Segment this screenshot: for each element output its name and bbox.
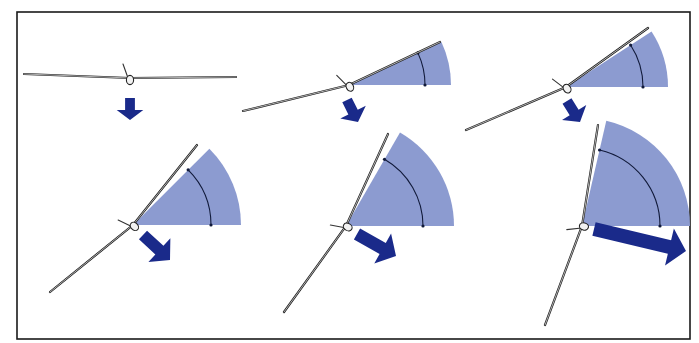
panel-4 — [50, 145, 241, 292]
panel-2 — [243, 42, 451, 122]
arc-end-dot — [658, 224, 661, 227]
bank-angle-sector — [582, 121, 690, 226]
glider-tail-fin — [567, 228, 582, 230]
bank-angle-sector — [133, 149, 241, 225]
bank-angle-sector — [566, 31, 668, 87]
lift-arrow-icon — [354, 229, 396, 264]
glider-tail-fin — [553, 79, 565, 88]
arc-end-dot — [383, 158, 386, 161]
glider-bank-angle-diagram — [0, 0, 699, 343]
panel-5 — [284, 132, 454, 312]
lift-arrow-icon — [117, 98, 144, 120]
arc-end-dot — [629, 43, 632, 46]
arc-end-dot — [598, 148, 601, 151]
panel-1 — [24, 64, 236, 120]
glider-tail-fin — [118, 220, 131, 226]
panels-group — [24, 28, 690, 325]
glider-fuselage — [126, 75, 133, 84]
lift-arrow-icon — [562, 98, 586, 122]
panel-3 — [466, 28, 668, 130]
lift-arrow-icon — [139, 231, 170, 262]
glider-tail-fin — [123, 64, 128, 78]
arc-end-dot — [423, 83, 426, 86]
arc-end-dot — [187, 168, 190, 171]
lift-arrow-icon — [340, 98, 365, 122]
arc-end-dot — [421, 224, 424, 227]
bank-angle-sector — [346, 132, 454, 226]
lift-arrow-icon — [592, 222, 686, 265]
arc-end-dot — [209, 223, 212, 226]
panel-6 — [545, 121, 690, 325]
arc-end-dot — [641, 85, 644, 88]
glider-tail-fin — [337, 75, 347, 86]
